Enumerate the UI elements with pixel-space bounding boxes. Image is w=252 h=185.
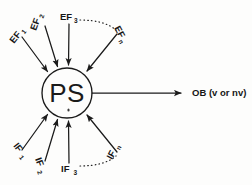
arrow-if-1 <box>22 115 48 151</box>
label-if-2-subscript: 2 <box>36 170 44 176</box>
diagram-svg: PS EF 1 EF 2 EF 3 EF n <box>0 0 252 185</box>
label-if-1-subscript: 1 <box>18 154 26 161</box>
arrow-ef-3 <box>69 24 70 65</box>
label-ef-1-subscript: 1 <box>20 28 28 35</box>
label-ef-3-subscript: 3 <box>74 17 78 24</box>
inhibitory-input-labels: IF 1 IF 2 IF 3 IF n <box>10 140 122 175</box>
diagram-canvas: PS EF 1 EF 2 EF 3 EF n <box>0 0 252 185</box>
inhibitory-input-arrows <box>22 115 117 164</box>
arrow-ef-n <box>87 34 117 71</box>
scan-speck <box>67 109 69 112</box>
arrow-if-3 <box>69 121 70 163</box>
label-output: OB (v or nv) <box>192 87 246 98</box>
arrow-if-2 <box>45 120 58 162</box>
arrow-ef-1 <box>22 37 48 72</box>
arrow-if-n <box>87 115 117 152</box>
label-ef-2-subscript: 2 <box>37 13 45 19</box>
arrow-ef-2 <box>45 26 58 67</box>
label-if-3: IF <box>61 163 70 174</box>
label-if-1: IF <box>11 140 25 154</box>
label-ef-3: EF <box>60 11 72 22</box>
ellipsis-arc-top <box>80 20 116 30</box>
label-ef-2: EF <box>28 16 43 31</box>
ps-node-label: PS <box>49 78 85 108</box>
label-if-2: IF <box>33 156 46 168</box>
label-if-3-subscript: 3 <box>74 169 78 176</box>
